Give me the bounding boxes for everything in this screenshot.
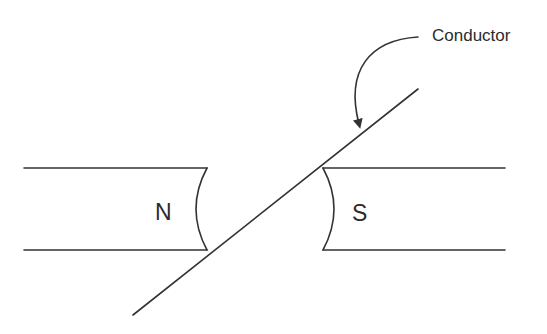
north-pole-face	[196, 168, 207, 250]
north-pole-magnet: N	[24, 168, 207, 250]
conductor-pointer-arrow-icon	[355, 37, 418, 124]
south-pole-magnet: S	[323, 168, 505, 250]
south-pole-label: S	[352, 200, 367, 226]
south-pole-face	[323, 168, 334, 250]
conductor-wire	[133, 89, 418, 315]
magnet-conductor-diagram: N S Conductor	[0, 0, 547, 334]
conductor-label: Conductor	[432, 26, 511, 45]
north-pole-label: N	[155, 199, 172, 225]
